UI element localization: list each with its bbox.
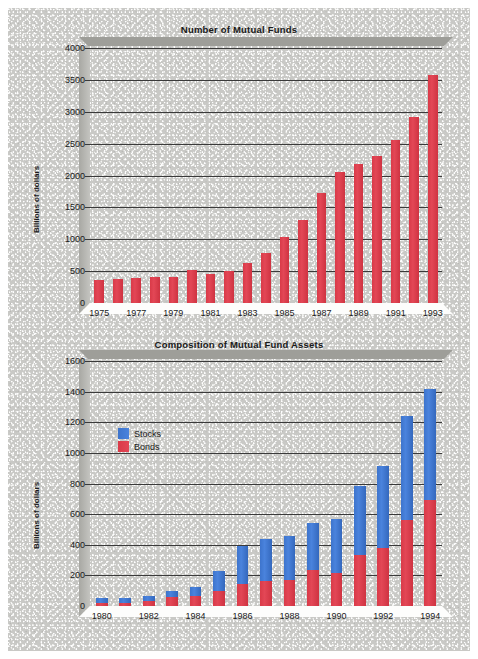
plot-shelf-top	[79, 350, 453, 359]
bar	[424, 389, 436, 606]
gridline	[90, 239, 442, 240]
chart-title-top: Number of Mutual Funds	[8, 24, 470, 35]
bar-segment-bonds	[354, 555, 366, 606]
bar	[409, 117, 419, 303]
y-axis-tick	[85, 48, 90, 49]
bar	[190, 587, 202, 606]
bar-segment	[428, 75, 438, 303]
bar-segment-stocks	[377, 466, 389, 548]
bar-segment-stocks	[260, 539, 272, 581]
y-axis-tick	[85, 453, 90, 454]
bar-segment-stocks	[331, 519, 343, 574]
x-axis-tick-label: 1993	[423, 308, 443, 318]
gridline	[90, 453, 442, 454]
bar-segment-stocks	[166, 591, 178, 598]
bar	[428, 75, 438, 303]
x-axis-tick-label: 1987	[312, 308, 332, 318]
y-axis-tick-label: 2000	[65, 171, 85, 181]
plot-shelf-top	[79, 37, 453, 46]
bar	[166, 591, 178, 606]
bar	[94, 280, 104, 303]
bar	[335, 172, 345, 303]
bar-segment-bonds	[331, 573, 343, 606]
y-axis-tick	[85, 575, 90, 576]
x-axis-tick-label: 1980	[92, 611, 112, 621]
bar-segment	[372, 156, 382, 303]
bar-segment-bonds	[260, 581, 272, 606]
bar	[377, 466, 389, 606]
x-axis-tick-label: 1994	[420, 611, 440, 621]
x-axis-tick-label: 1981	[200, 308, 220, 318]
y-axis-tick-label: 1200	[65, 417, 85, 427]
bar-segment	[187, 270, 197, 303]
legend: Stocks Bonds	[118, 427, 161, 453]
x-axis-tick-label: 1983	[237, 308, 257, 318]
y-axis-tick	[85, 239, 90, 240]
bar-segment	[280, 237, 290, 303]
bar-segment	[354, 164, 364, 303]
bar	[401, 416, 413, 606]
y-axis-label-bottom: Billions of dollars	[32, 482, 41, 549]
bar-segment-stocks	[143, 596, 155, 601]
legend-label-stocks: Stocks	[134, 429, 161, 439]
gridline	[90, 80, 442, 81]
bar-segment-stocks	[401, 416, 413, 520]
bar	[96, 598, 108, 606]
bar	[213, 571, 225, 606]
y-axis-tick-label: 3000	[65, 107, 85, 117]
y-axis-tick-label: 2500	[65, 139, 85, 149]
bar-segment	[169, 277, 179, 303]
x-axis-tick-label: 1986	[233, 611, 253, 621]
bar-segment-stocks	[213, 571, 225, 590]
gridline	[90, 112, 442, 113]
y-axis-tick-label: 0	[80, 601, 85, 611]
plot-area-top: 0500100015002000250030003500400019751977…	[90, 48, 442, 303]
bar	[131, 278, 141, 303]
x-axis-tick-label: 1984	[186, 611, 206, 621]
x-axis-tick-label: 1991	[386, 308, 406, 318]
bar	[169, 277, 179, 303]
bar-segment	[131, 278, 141, 303]
y-axis-tick	[85, 514, 90, 515]
bar	[260, 539, 272, 606]
bar	[284, 536, 296, 606]
bar-segment-stocks	[307, 523, 319, 570]
bar	[261, 253, 271, 303]
gridline	[90, 514, 442, 515]
bar	[354, 164, 364, 303]
bar-segment-bonds	[284, 580, 296, 606]
bar-segment	[391, 140, 401, 303]
y-axis-tick	[85, 80, 90, 81]
y-axis-label-top: Billions of dollars	[32, 166, 41, 233]
legend-label-bonds: Bonds	[134, 442, 160, 452]
y-axis-tick	[85, 207, 90, 208]
bar-segment	[150, 277, 160, 303]
bar-segment	[317, 193, 327, 303]
bar-segment-stocks	[354, 486, 366, 555]
x-axis-tick-label: 1979	[163, 308, 183, 318]
y-axis-tick-label: 400	[70, 540, 85, 550]
x-axis-tick-label: 1977	[126, 308, 146, 318]
bar-segment-bonds	[166, 597, 178, 606]
y-axis-tick	[85, 422, 90, 423]
bar-segment-stocks	[119, 598, 131, 602]
chart-title-bottom: Composition of Mutual Fund Assets	[8, 339, 470, 350]
y-axis-tick	[85, 144, 90, 145]
bar	[280, 237, 290, 303]
bar	[187, 270, 197, 303]
gridline	[90, 176, 442, 177]
gridline	[90, 361, 442, 362]
bar	[391, 140, 401, 303]
bar	[243, 263, 253, 303]
y-axis-tick-label: 1000	[65, 234, 85, 244]
y-axis-tick-label: 600	[70, 509, 85, 519]
y-axis-tick	[85, 484, 90, 485]
y-axis-tick-label: 4000	[65, 43, 85, 53]
bar-segment-bonds	[96, 603, 108, 606]
bar	[307, 523, 319, 606]
y-axis-tick	[85, 392, 90, 393]
bar-segment	[206, 274, 216, 303]
bar-segment-bonds	[213, 591, 225, 606]
gridline	[90, 422, 442, 423]
y-axis-tick-label: 500	[70, 266, 85, 276]
